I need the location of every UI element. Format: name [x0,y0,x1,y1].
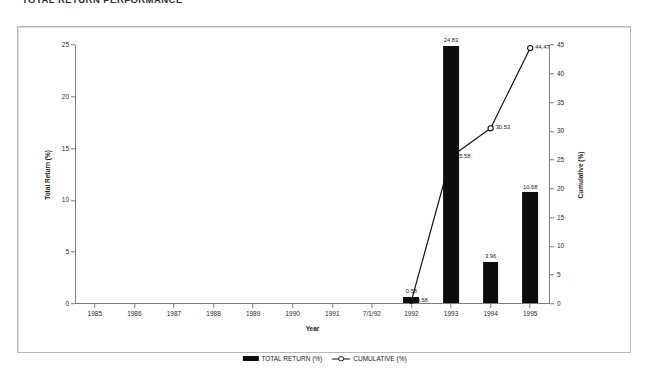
bar-value-label: 0.58 [406,289,417,295]
bar: 3.96 [483,262,499,303]
bar: 24.83 [443,46,459,303]
y-axis-right-tick: 0 [550,301,561,308]
bar-value-label: 3.96 [485,254,496,260]
x-axis-tick: 1987 [167,304,181,318]
y-axis-left-tick: 0 [65,301,75,308]
y-axis-right-tick: 25 [550,157,564,164]
x-axis-tick: 1992 [404,304,418,318]
x-axis-tick: 1995 [523,304,537,318]
y-axis-left-tick: 25 [62,42,75,49]
x-axis-tick: 1991 [325,304,339,318]
y-axis-right-spine [549,45,550,304]
y-axis-right-title: Cumulative (%) [577,151,584,198]
x-axis-tick: 1990 [285,304,299,318]
cumulative-line-series [75,45,550,304]
x-axis-spine [75,303,550,304]
y-axis-left-tick: 15 [62,145,75,152]
x-axis-title: Year [306,325,320,332]
page-title: TOTAL RETURN PERFORMANCE [22,0,183,5]
y-axis-right-tick: 35 [550,99,564,106]
x-axis-tick: 7/1/92 [363,304,381,318]
y-axis-left-title: Total Return (%) [44,150,51,200]
x-axis-tick: 1994 [483,304,497,318]
bar: 10.68 [522,192,538,303]
legend-item-total-return: TOTAL RETURN (%) [242,355,322,362]
legend-item-cumulative: CUMULATIVE (%) [332,355,406,362]
y-axis-left-spine [75,45,76,304]
line-circle-marker-icon [332,355,350,362]
y-axis-right-tick: 30 [550,128,564,135]
bar-swatch-icon [242,356,258,361]
y-axis-left-tick: 5 [65,249,75,256]
x-axis-tick: 1986 [127,304,141,318]
legend-label-total-return: TOTAL RETURN (%) [261,355,322,362]
y-axis-right-tick: 5 [550,272,561,279]
y-axis-right-tick: 40 [550,71,564,78]
y-axis-left-tick: 20 [62,94,75,101]
x-axis-tick: 1993 [444,304,458,318]
cumulative-value-label: 44.47 [535,45,550,51]
y-axis-left-tick: 10 [62,197,75,204]
y-axis-right-tick: 10 [550,243,564,250]
y-axis-right-tick: 15 [550,214,564,221]
x-axis-tick: 1989 [246,304,260,318]
legend-label-cumulative: CUMULATIVE (%) [353,355,406,362]
cumulative-value-label: 25.58 [456,154,471,160]
y-axis-right-tick: 45 [550,42,564,49]
cumulative-value-label: 0.58 [416,298,427,304]
bar-value-label: 24.83 [444,38,459,44]
x-axis-tick: 1985 [88,304,102,318]
bar-value-label: 10.68 [523,185,538,191]
cumulative-value-label: 30.53 [496,125,511,131]
chart-legend: TOTAL RETURN (%) CUMULATIVE (%) [242,355,406,362]
chart-plot-area: Total Return (%) Cumulative (%) Year 051… [75,45,550,304]
y-axis-right-tick: 20 [550,186,564,193]
x-axis-tick: 1988 [206,304,220,318]
